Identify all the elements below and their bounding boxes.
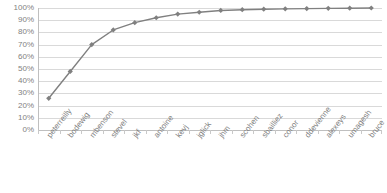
y-axis-tick-label: 80%	[2, 28, 34, 36]
y-axis-labels: 100%90%80%70%60%50%40%30%20%10%0%	[0, 0, 34, 140]
y-axis-tick-label: 50%	[2, 65, 34, 73]
cumulative-contribution-chart: 100%90%80%70%60%50%40%30%20%10%0% peterr…	[0, 0, 387, 193]
data-point-marker	[154, 15, 159, 20]
data-point-marker	[261, 7, 266, 12]
series-markers	[46, 5, 374, 100]
data-point-marker	[326, 6, 331, 11]
y-axis-tick-label: 90%	[2, 16, 34, 24]
data-point-marker	[218, 8, 223, 13]
y-axis-tick-label: 0%	[2, 126, 34, 134]
data-point-marker	[197, 10, 202, 15]
x-axis-labels: peterreillybodewigmbensonsteveljkfantoin…	[38, 134, 382, 193]
y-axis-tick-label: 100%	[2, 4, 34, 12]
data-point-marker	[304, 6, 309, 11]
data-point-marker	[283, 6, 288, 11]
data-point-marker	[175, 12, 180, 17]
data-point-marker	[369, 5, 374, 10]
data-point-marker	[240, 7, 245, 12]
series-line	[49, 8, 372, 98]
y-axis-tick-label: 70%	[2, 41, 34, 49]
y-axis-tick-label: 20%	[2, 102, 34, 110]
data-point-marker	[132, 20, 137, 25]
y-axis-tick-label: 30%	[2, 89, 34, 97]
y-axis-tick-label: 10%	[2, 114, 34, 122]
y-axis-tick-label: 40%	[2, 77, 34, 85]
y-axis-tick-label: 60%	[2, 53, 34, 61]
data-point-marker	[347, 6, 352, 11]
